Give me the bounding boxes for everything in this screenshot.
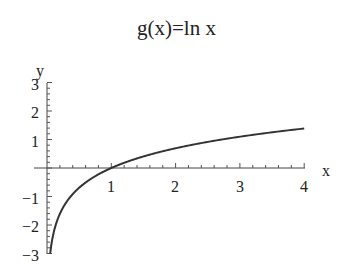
y-tick-label: −1 bbox=[22, 190, 39, 207]
y-axis-ticks bbox=[47, 83, 52, 254]
x-axis-label: x bbox=[322, 162, 330, 179]
y-tick-label: 2 bbox=[31, 104, 39, 121]
x-tick-label: 2 bbox=[171, 178, 179, 195]
y-tick-label: −2 bbox=[22, 218, 39, 235]
y-tick-label: 3 bbox=[31, 76, 39, 93]
x-axis-ticks bbox=[60, 163, 304, 168]
x-tick-label: 1 bbox=[107, 178, 115, 195]
x-tick-label: 3 bbox=[236, 178, 244, 195]
chart-plot: y x 3 2 1 −1 −2 −3 1 2 3 4 bbox=[0, 0, 353, 271]
y-tick-label: 1 bbox=[31, 133, 39, 150]
y-tick-label: −3 bbox=[22, 247, 39, 264]
x-tick-label: 4 bbox=[300, 178, 308, 195]
